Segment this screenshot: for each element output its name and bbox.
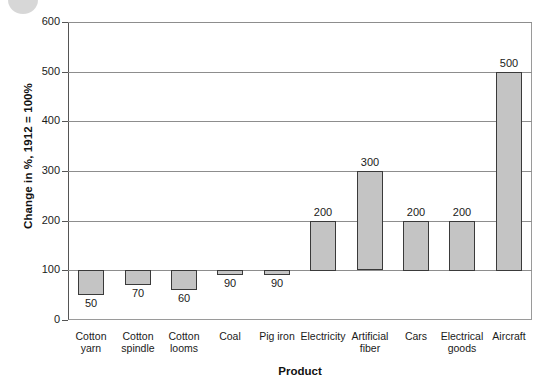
bar: [357, 171, 383, 270]
category-label-line: looms: [154, 342, 214, 354]
y-tick-mark-100: [62, 270, 68, 271]
y-tick-label-wrap-600: 600: [0, 16, 60, 27]
y-tick-mark-500: [62, 72, 68, 73]
y-tick-label: 0: [4, 314, 60, 325]
bar: [125, 270, 151, 285]
bar: [217, 270, 243, 275]
corner-circle-decoration: [8, 0, 38, 14]
bar: [403, 221, 429, 271]
y-tick-mark-0: [62, 320, 68, 321]
y-tick-label-wrap-100: 100: [0, 264, 60, 275]
x-axis-title: Product: [68, 365, 532, 377]
x-axis-category-label: Aircraft: [479, 330, 539, 342]
gridline-300: [68, 171, 532, 172]
bar-chart: 0100200300400500600 Change in %, 1912 = …: [0, 0, 550, 384]
bar: [78, 270, 104, 295]
bar: [310, 221, 336, 271]
bar-value-label: 200: [293, 206, 353, 218]
y-axis-title: Change in %, 1912 = 100%: [22, 66, 34, 246]
bar-value-label: 90: [247, 277, 307, 289]
bar-value-label: 500: [479, 57, 539, 69]
y-tick-mark-200: [62, 221, 68, 222]
y-tick-mark-300: [62, 171, 68, 172]
bar: [264, 270, 290, 275]
category-label-line: Aircraft: [479, 330, 539, 342]
bar-value-label: 200: [432, 206, 492, 218]
y-tick-label: 600: [4, 16, 60, 27]
bar: [171, 270, 197, 290]
gridline-400: [68, 121, 532, 122]
gridline-500: [68, 72, 532, 73]
bar: [496, 72, 522, 271]
y-tick-mark-400: [62, 121, 68, 122]
bar: [449, 221, 475, 271]
gridline-600: [68, 22, 532, 23]
y-tick-label: 100: [4, 264, 60, 275]
category-label-line: fiber: [340, 342, 400, 354]
bar-value-label: 300: [340, 156, 400, 168]
y-tick-label-wrap-0: 0: [0, 314, 60, 325]
category-label-line: goods: [432, 342, 492, 354]
y-tick-mark-600: [62, 22, 68, 23]
bar-value-label: 60: [154, 292, 214, 304]
